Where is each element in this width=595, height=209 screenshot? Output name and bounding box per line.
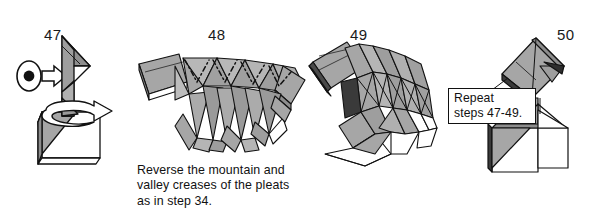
diagram-sheet: 47 <box>0 0 595 209</box>
step-panel-50: 50 <box>440 0 595 185</box>
repeat-steps-callout: Repeat steps 47-49. <box>448 88 536 124</box>
step-panel-47: 47 <box>0 0 140 175</box>
rotate-arrow-icon <box>38 96 128 132</box>
origami-figure-48 <box>135 42 310 152</box>
step-caption-48: Reverse the mountain and valley creases … <box>137 163 312 209</box>
step-panel-48: 48 <box>135 0 310 209</box>
step-number-48: 48 <box>208 27 225 42</box>
step-panel-49: 49 <box>295 0 460 180</box>
origami-figure-49 <box>295 30 460 175</box>
